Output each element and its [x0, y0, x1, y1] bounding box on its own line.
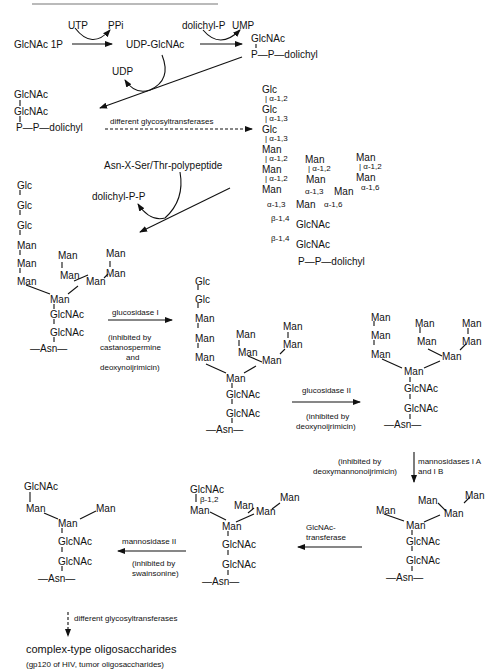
g1-right-man-bottom: Man	[283, 339, 302, 350]
precursor-a13-left: α-1,3	[267, 200, 285, 209]
link-label: α-1,3	[269, 114, 287, 123]
glycan-right-man-top: Man	[106, 248, 125, 259]
man5-glcnac-1: GlcNAc	[406, 536, 440, 547]
man9-asn: —Asn—	[384, 419, 421, 430]
man5-glcnac-2: GlcNAc	[406, 555, 440, 566]
man9-glcnac-1: GlcNAc	[404, 383, 438, 394]
link-label: α-1,2	[269, 174, 287, 183]
man9-mid-bottom: Man	[417, 336, 436, 347]
link-label: α-1,2	[269, 94, 287, 103]
hybrid-asn: —Asn—	[202, 576, 239, 587]
lipid-pp-dolichyl: P—P—dolichyl	[251, 49, 318, 60]
man9-branch-man: Man	[442, 351, 461, 362]
man5-mid-bottom: Man	[444, 508, 463, 519]
hybrid-glcnac-1: GlcNAc	[222, 539, 256, 550]
g1-man-2: Man	[195, 333, 214, 344]
trimmed-left-man: Man	[26, 503, 45, 514]
man9-chain-1: Man	[371, 312, 390, 323]
trimmed-core-man: Man	[58, 518, 77, 529]
man5-right-man: Man	[465, 490, 484, 501]
precursor-beta-2: β-1,4	[271, 234, 289, 243]
glycan-asn: —Asn—	[30, 343, 67, 354]
glucosidase-2-label: glucosidase II	[302, 386, 351, 395]
precursor-mid-link: | α-1,2	[308, 164, 331, 173]
man9-glcnac-2: GlcNAc	[404, 403, 438, 414]
hybrid-core-man: Man	[222, 521, 241, 532]
udp-glcnac-label: UDP-GlcNAc	[126, 39, 184, 50]
trimmed-glcnac-1: GlcNAc	[58, 536, 92, 547]
precursor-right-man-bottom: Man	[356, 172, 375, 183]
glycan-glcnac-2: GlcNAc	[50, 327, 84, 338]
man9-mid-top: Man	[415, 318, 434, 329]
glycan-core-man: Man	[50, 294, 69, 305]
glucosidase-1-note-2: castanospermine	[100, 343, 161, 352]
precursor-a16-mid: α-1,6	[324, 200, 342, 209]
glycan-glc-2: Glc	[17, 200, 32, 211]
precursor-link-3: | α-1,3	[265, 134, 288, 143]
glycan-mid-man-bottom: Man	[60, 270, 79, 281]
link-label: α-1,2	[312, 164, 330, 173]
g1-mid-man-top: Man	[236, 329, 255, 340]
g1-glc-1: Glc	[195, 276, 210, 287]
glycan-right-man-bottom: Man	[106, 268, 125, 279]
precursor-mid-man-bottom: Man	[306, 174, 325, 185]
hybrid-glcnac-2: GlcNAc	[222, 559, 256, 570]
hybrid-mid-bottom: Man	[256, 506, 275, 517]
man9-core-man: Man	[404, 366, 423, 377]
glucosidase-2-note-2: deoxynoijrimicin)	[296, 422, 356, 431]
man9-chain-3: Man	[371, 349, 390, 360]
glucosidase-1-label: glucosidase I	[112, 308, 159, 317]
hybrid-mid-top: Man	[234, 500, 253, 511]
g1-glcnac-2: GlcNAc	[226, 408, 260, 419]
hybrid-glcnac: GlcNAc	[190, 484, 224, 495]
link-label: α-1,2	[363, 162, 381, 171]
precursor-glcnac-2: GlcNAc	[296, 239, 330, 250]
man5-core-man: Man	[406, 520, 425, 531]
trimmed-asn: —Asn—	[38, 573, 75, 584]
lipid-glcnac: GlcNAc	[251, 33, 285, 44]
precursor-link-1: | α-1,2	[265, 94, 288, 103]
trimmed-glcnac: GlcNAc	[24, 481, 58, 492]
mannosidase-1-label-1: mannosidases I A	[418, 457, 481, 466]
complex-oligosaccharides-label: complex-type oligosaccharides	[26, 644, 176, 655]
glucosidase-2-note-1: (inhibited by	[306, 412, 349, 421]
mannosidase-2-note-2: swainsonine)	[132, 569, 179, 578]
glycan-man-2: Man	[17, 258, 36, 269]
chitobiose-glcnac-1: GlcNAc	[14, 89, 48, 100]
precursor-a13-mid: α-1,3	[305, 187, 323, 196]
hybrid-right-man: Man	[280, 492, 299, 503]
precursor-link-2: | α-1,3	[265, 114, 288, 123]
g1-branch-man: Man	[262, 355, 281, 366]
precursor-core-man: Man	[296, 199, 315, 210]
precursor-pp-dolichyl: P—P—dolichyl	[298, 256, 365, 267]
glycosyltransferases-label: different glycosyltransferases	[110, 117, 213, 126]
link-label: α-1,3	[269, 134, 287, 143]
man5-mid-top: Man	[418, 495, 437, 506]
glycan-glcnac-1: GlcNAc	[50, 309, 84, 320]
ump-label: UMP	[232, 20, 254, 31]
hybrid-beta: β-1,2	[200, 495, 218, 504]
glycan-man-3: Man	[17, 276, 36, 287]
precursor-link-4: | α-1,2	[265, 154, 288, 163]
precursor-a16-right: α-1,6	[361, 183, 379, 192]
mannosidase-2-label: mannosidase II	[122, 537, 176, 546]
mannosidase-2-note-1: (inhibited by	[132, 559, 175, 568]
trimmed-glcnac-2: GlcNAc	[58, 556, 92, 567]
man5-left-man: Man	[376, 505, 395, 516]
precursor-glcnac-1: GlcNAc	[296, 219, 330, 230]
glycan-glc-3: Glc	[17, 220, 32, 231]
glucosidase-1-note-3: and	[126, 353, 139, 362]
ppi-label: PPi	[108, 20, 124, 31]
final-enzyme-label: different glycosyltransferases	[74, 614, 177, 623]
mannosidase-1-label-2: and I B	[418, 467, 443, 476]
glycan-mid-man-top: Man	[58, 250, 77, 261]
glycan-glc-1: Glc	[17, 180, 32, 191]
g1-glc-2: Glc	[195, 294, 210, 305]
glucosidase-1-note-4: deoxynoijrimicin)	[100, 363, 160, 372]
g1-asn: —Asn—	[206, 424, 243, 435]
trimmed-right-man: Man	[96, 503, 115, 514]
mannosidase-1-note-1: (inhibited by	[338, 457, 381, 466]
glycan-branch-man: Man	[86, 276, 105, 287]
dolichyl-p-label: dolichyl-P	[182, 20, 225, 31]
dolichyl-pp-label: dolichyl-P-P	[92, 191, 145, 202]
